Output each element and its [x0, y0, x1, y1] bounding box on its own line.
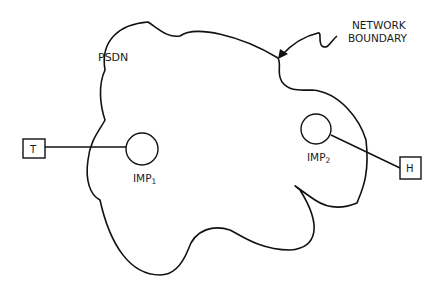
network-boundary-label-line2: BOUNDARY: [348, 32, 408, 44]
imp1-node: [126, 133, 158, 165]
network-diagram: PSDN NETWORK BOUNDARY T IMP1 IMP2 H: [0, 0, 443, 295]
boundary-arrow-icon: [282, 33, 337, 55]
psdn-label: PSDN: [98, 51, 128, 64]
network-boundary-label-line1: NETWORK: [352, 19, 407, 31]
imp2-label: IMP2: [307, 151, 331, 165]
imp2-node: [301, 114, 331, 144]
imp1-label: IMP1: [133, 172, 157, 186]
host-label: H: [406, 163, 414, 174]
terminal-label: T: [29, 144, 37, 155]
